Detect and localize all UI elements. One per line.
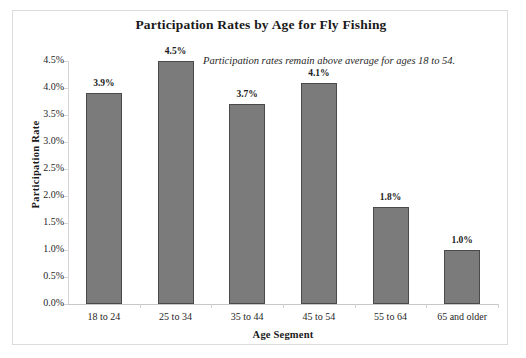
y-tick-label: 4.0%	[14, 81, 64, 92]
y-tick-label: 0.0%	[14, 297, 64, 308]
bar-value-label: 3.7%	[215, 89, 279, 99]
x-tick-label: 55 to 64	[351, 311, 431, 322]
y-tick-label: 4.5%	[14, 54, 64, 65]
chart-title: Participation Rates by Age for Fly Fishi…	[13, 17, 509, 33]
x-tick-label: 25 to 34	[136, 311, 216, 322]
chart-frame: Participation Rates by Age for Fly Fishi…	[12, 10, 508, 345]
x-axis-title: Age Segment	[68, 329, 498, 340]
x-tick-mark	[140, 304, 141, 308]
bar[interactable]: 1.0%	[444, 61, 480, 304]
y-tick-label: 0.5%	[14, 270, 64, 281]
plot-area: 0.0%0.5%1.0%1.5%2.0%2.5%3.0%3.5%4.0%4.5%…	[68, 61, 498, 304]
bars-layer: 3.9%4.5%3.7%4.1%1.8%1.0%	[68, 61, 498, 304]
y-tick-label: 1.0%	[14, 243, 64, 254]
bar[interactable]: 4.1%	[301, 61, 337, 304]
bar[interactable]: 4.5%	[158, 61, 194, 304]
bar-value-label: 1.0%	[430, 235, 494, 245]
y-tick-label: 2.5%	[14, 162, 64, 173]
bar-value-label: 3.9%	[72, 78, 136, 88]
bar-rect	[444, 250, 480, 304]
bar-rect	[229, 104, 265, 304]
y-tick-label: 3.5%	[14, 108, 64, 119]
y-tick-label: 1.5%	[14, 216, 64, 227]
x-tick-mark	[426, 304, 427, 308]
x-tick-label: 65 and older	[422, 311, 502, 322]
x-tick-mark	[211, 304, 212, 308]
bar[interactable]: 3.7%	[229, 61, 265, 304]
x-tick-mark	[498, 304, 499, 308]
x-tick-mark	[355, 304, 356, 308]
bar-rect	[158, 61, 194, 304]
bar[interactable]: 1.8%	[373, 61, 409, 304]
bar-rect	[373, 207, 409, 304]
x-axis-ticks: 18 to 2425 to 3435 to 4445 to 5455 to 64…	[68, 311, 498, 327]
bar-value-label: 4.1%	[287, 68, 351, 78]
bar-value-label: 4.5%	[144, 46, 208, 56]
y-tick-label: 2.0%	[14, 189, 64, 200]
y-tick-label: 3.0%	[14, 135, 64, 146]
bar-rect	[301, 83, 337, 304]
bar-value-label: 1.8%	[359, 192, 423, 202]
x-tick-label: 45 to 54	[279, 311, 359, 322]
x-tick-label: 18 to 24	[64, 311, 144, 322]
bar[interactable]: 3.9%	[86, 61, 122, 304]
bar-rect	[86, 93, 122, 304]
x-tick-mark	[283, 304, 284, 308]
x-tick-label: 35 to 44	[207, 311, 287, 322]
